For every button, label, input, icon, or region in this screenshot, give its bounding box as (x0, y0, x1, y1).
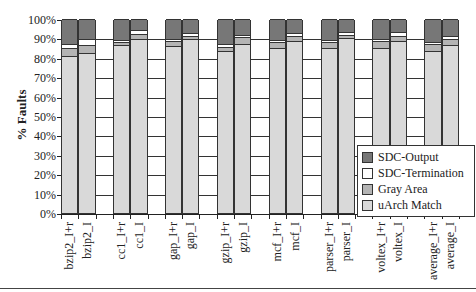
x-tick-mark (148, 214, 149, 219)
x-label-slot: bzip2_I (78, 222, 96, 292)
x-label-slot: average_I+r (424, 222, 442, 292)
segment-sdc-termination (425, 42, 440, 44)
gridline (303, 175, 320, 176)
segment-gray-area (322, 42, 337, 48)
x-label-slot: gzip_I+r (216, 222, 234, 292)
segment-gray-area (183, 36, 198, 40)
gridline (199, 98, 216, 99)
gridline (355, 136, 372, 137)
bar-cc1-i (130, 20, 147, 214)
y-tick-label: 0% (14, 208, 56, 220)
bar-mcf-i (286, 20, 303, 214)
x-tick-mark (78, 214, 79, 219)
segment-gray-area (443, 39, 458, 45)
segment-gray-area (62, 48, 77, 56)
gridline (303, 195, 320, 196)
x-tick-label: voltex_I+r (375, 222, 387, 273)
gridline (96, 78, 113, 79)
segment-sdc-output (166, 19, 181, 39)
segment-sdc-output (131, 19, 146, 30)
y-tick-label: 70% (14, 72, 56, 84)
segment-sdc-termination (322, 40, 337, 42)
y-tick-label: 90% (14, 33, 56, 45)
gridline (251, 78, 268, 79)
segment-gray-area (131, 34, 146, 40)
segment-sdc-termination (131, 30, 146, 34)
x-tick-mark (269, 214, 270, 219)
group-gap (303, 20, 320, 214)
x-tick-label: parser_I (341, 222, 353, 261)
segment-sdc-termination (287, 33, 302, 37)
legend-item-sdc-termination: SDC-Termination (362, 165, 470, 181)
y-tick-label: 20% (14, 169, 56, 181)
x-label-slot: gap_I (182, 222, 200, 292)
segment-gray-area (218, 47, 233, 51)
x-tick-label: gap_I (185, 222, 197, 249)
segment-sdc-termination (391, 32, 406, 36)
segment-uarch-match (235, 44, 250, 213)
gridline (96, 175, 113, 176)
legend-item-gray-area: Gray Area (362, 181, 470, 197)
segment-sdc-termination (183, 33, 198, 36)
gridline (96, 59, 113, 60)
gridline (199, 136, 216, 137)
x-label-slot: mcf_I (286, 222, 304, 292)
legend-swatch-icon (362, 152, 373, 163)
gridline (251, 136, 268, 137)
legend-label: SDC-Termination (378, 166, 464, 181)
divider (0, 288, 476, 289)
gridline (96, 195, 113, 196)
bar-parser-i (338, 20, 355, 214)
gridline (251, 117, 268, 118)
y-tick-label: 100% (14, 14, 56, 26)
gridline (407, 78, 424, 79)
x-tick-label: gzip_I (237, 222, 249, 253)
x-tick-label: voltex_I (392, 222, 404, 262)
segment-uarch-match (62, 56, 77, 213)
gridline (407, 59, 424, 60)
bar-parser-i-r (321, 20, 338, 214)
x-tick-mark (217, 214, 218, 219)
segment-sdc-termination (79, 39, 94, 45)
x-tick-mark (251, 214, 252, 219)
gridline (407, 39, 424, 40)
gridline (148, 59, 165, 60)
x-tick-mark (165, 214, 166, 219)
x-tick-mark (234, 214, 235, 219)
group-gap (251, 20, 268, 214)
segment-gray-area (166, 41, 181, 46)
y-tick-label: 40% (14, 130, 56, 142)
x-tick-mark (96, 214, 97, 219)
gridline (96, 39, 113, 40)
x-tick-mark (303, 214, 304, 219)
gridline (96, 156, 113, 157)
gridline (199, 117, 216, 118)
gridline (251, 39, 268, 40)
x-label-slot: parser_I (338, 222, 356, 292)
group-gap (199, 20, 216, 214)
legend-item-sdc-output: SDC-Output (362, 149, 470, 165)
legend-label: uArch Match (378, 198, 442, 213)
bar-gap-i (182, 20, 199, 214)
gridline (199, 78, 216, 79)
gridline (199, 59, 216, 60)
segment-sdc-output (218, 19, 233, 44)
segment-gray-area (425, 44, 440, 51)
bar-gap-i-r (165, 20, 182, 214)
stacked-bar-chart: % Faults 0%10%20%30%40%50%60%70%80%90%10… (0, 0, 476, 292)
gridline (148, 98, 165, 99)
segment-sdc-output (443, 19, 458, 35)
gridline (148, 156, 165, 157)
segment-sdc-output (425, 19, 440, 42)
segment-uarch-match (322, 48, 337, 213)
bar-gzip-i-r (217, 20, 234, 214)
x-tick-label: cc1_I (133, 222, 145, 249)
legend-swatch-icon (362, 168, 373, 179)
gridline (148, 78, 165, 79)
x-tick-mark (321, 214, 322, 219)
gridline (251, 98, 268, 99)
x-label-slot: gzip_I (234, 222, 252, 292)
gridline (355, 59, 372, 60)
x-tick-mark (113, 214, 114, 219)
gridline (148, 117, 165, 118)
